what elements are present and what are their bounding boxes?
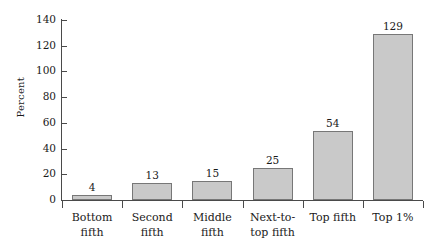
x-axis-category-label: Middlefifth [182,210,242,240]
y-axis-tick-label: 0 [20,193,56,206]
y-axis-tick-mark [62,149,67,150]
bar-chart: Percent 140120100806040200 413152554129 … [0,0,430,249]
bar-value-label: 13 [127,169,177,181]
y-axis-tick-label: 60 [20,116,56,129]
bar [313,131,353,200]
x-axis-tick-mark [62,201,63,208]
x-axis-category-label-line: Top 1% [363,210,423,225]
bar-value-label: 15 [187,167,237,179]
bar-value-label: 129 [368,20,418,32]
y-axis-tick-mark [62,46,67,47]
y-axis-tick-mark [62,97,67,98]
x-axis-category-label-line: Bottom [62,210,122,225]
bar-value-label: 4 [67,181,117,193]
x-axis-tick-mark [303,201,304,208]
y-axis-tick-mark [62,20,67,21]
x-axis-tick-mark [182,201,183,208]
y-axis-tick-label: 140 [20,13,56,26]
bar-value-label: 25 [248,154,298,166]
bar-value-label: 54 [308,117,358,129]
y-axis-tick-mark [62,123,67,124]
bar [373,34,413,200]
x-axis-category-label-line: Top fifth [303,210,363,225]
y-axis-tick-label: 120 [20,39,56,52]
x-axis-category-label: Top 1% [363,210,423,225]
y-axis-tick-mark [62,174,67,175]
y-axis-tick-mark [62,71,67,72]
x-axis-category-label-line: Next-to- [243,210,303,225]
x-axis-category-label-line: Middle [182,210,242,225]
bar [132,183,172,200]
x-axis-category-label-line: fifth [62,225,122,240]
x-axis-tick-mark [243,201,244,208]
x-axis-category-label: Secondfifth [122,210,182,240]
bar [72,195,112,200]
x-axis-category-label-line: Second [122,210,182,225]
y-axis-tick-label: 20 [20,167,56,180]
x-axis-category-label-line: top fifth [243,225,303,240]
bar [253,168,293,200]
x-axis-tick-mark [423,201,424,208]
x-axis-category-label: Top fifth [303,210,363,225]
x-axis-tick-mark [363,201,364,208]
x-axis-category-label: Bottomfifth [62,210,122,240]
x-axis-category-label-line: fifth [182,225,242,240]
x-axis-line [61,200,423,201]
y-axis-tick-label: 100 [20,64,56,77]
y-axis-tick-label: 80 [20,90,56,103]
x-axis-category-label-line: fifth [122,225,182,240]
x-axis-tick-mark [122,201,123,208]
bar [192,181,232,200]
y-axis-tick-label: 40 [20,142,56,155]
x-axis-category-label: Next-to-top fifth [243,210,303,240]
